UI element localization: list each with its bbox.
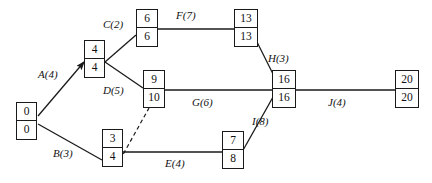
node-n4-late: 4 [85, 59, 104, 77]
edge-label-I: I(8) [252, 116, 269, 127]
edge-label-E: E(4) [165, 158, 185, 169]
edge-label-H: H(3) [268, 53, 289, 64]
edge-label-B: B(3) [53, 148, 73, 159]
node-n910-late: 10 [144, 89, 164, 107]
edge-C [105, 35, 136, 62]
node-n2020-early: 20 [396, 71, 418, 89]
node-n910: 9 10 [143, 70, 165, 108]
edge-label-D: D(5) [103, 85, 124, 96]
node-n66: 6 6 [136, 9, 158, 47]
node-n66-late: 6 [137, 28, 157, 46]
node-n34-early: 3 [103, 130, 122, 148]
node-n78: 7 8 [222, 131, 244, 169]
node-n34: 3 4 [102, 129, 123, 167]
edge-label-J: J(4) [328, 97, 346, 108]
node-start: 0 0 [16, 102, 37, 140]
node-n78-early: 7 [223, 132, 243, 150]
node-n78-late: 8 [223, 150, 243, 168]
node-n1616-early: 16 [273, 71, 295, 89]
node-n1313: 13 13 [234, 9, 258, 47]
node-n1313-late: 13 [235, 28, 257, 46]
node-n1616: 16 16 [272, 70, 296, 108]
node-n4-early: 4 [85, 41, 104, 59]
edge-label-F: F(7) [176, 10, 196, 21]
edge-label-A: A(4) [38, 69, 58, 80]
node-n2020-late: 20 [396, 89, 418, 107]
node-n66-early: 6 [137, 10, 157, 28]
node-start-early: 0 [17, 103, 36, 121]
node-n1313-early: 13 [235, 10, 257, 28]
node-start-late: 0 [17, 121, 36, 139]
edge-label-G: G(6) [192, 97, 213, 108]
node-n2020: 20 20 [395, 70, 419, 108]
node-n910-early: 9 [144, 71, 164, 89]
node-n34-late: 4 [103, 148, 122, 166]
project-network-diagram: 0 0 4 4 3 4 6 6 9 10 7 8 13 13 16 16 20 … [0, 0, 432, 183]
edge-label-C: C(2) [103, 19, 123, 30]
node-n1616-late: 16 [273, 89, 295, 107]
node-n4: 4 4 [84, 40, 105, 78]
